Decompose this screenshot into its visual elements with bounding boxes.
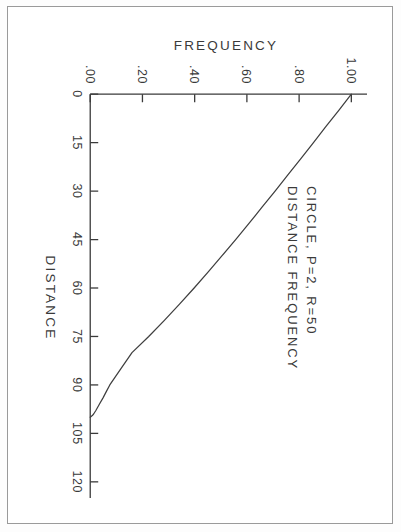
- rotated-figure: 0153045607590105120 .00.20.40.60.801.00 …: [15, 16, 385, 516]
- x-tick-label: 30: [70, 184, 84, 199]
- distance-frequency-chart: 0153045607590105120 .00.20.40.60.801.00 …: [15, 16, 385, 516]
- x-axis-ticks: 0153045607590105120: [70, 90, 98, 493]
- y-axis-ticks: .00.20.40.60.801.00: [83, 57, 358, 102]
- y-tick-label: .60: [239, 65, 253, 84]
- y-tick-label: .80: [292, 65, 306, 84]
- x-tick-label: 120: [70, 471, 84, 494]
- plot-area: 0153045607590105120 .00.20.40.60.801.00 …: [15, 16, 385, 516]
- x-tick-label: 75: [70, 329, 84, 344]
- chart-title-line-2: DISTANCE FREQUENCY: [285, 186, 300, 370]
- x-tick-label: 45: [70, 232, 84, 247]
- y-tick-label: .40: [187, 65, 201, 84]
- x-tick-label: 90: [70, 377, 84, 392]
- x-tick-label: 60: [70, 280, 84, 295]
- scanned-page: 0153045607590105120 .00.20.40.60.801.00 …: [0, 0, 401, 532]
- chart-title-line-1: CIRCLE, P=2, R=50: [304, 186, 319, 335]
- x-tick-label: 15: [70, 135, 84, 150]
- x-tick-label: 105: [70, 422, 84, 445]
- y-tick-label: .20: [135, 65, 149, 84]
- y-tick-label: .00: [83, 65, 97, 84]
- x-tick-label: 0: [70, 90, 84, 98]
- y-tick-label: 1.00: [344, 57, 358, 84]
- y-axis-title: FREQUENCY: [174, 38, 279, 53]
- x-axis-title: DISTANCE: [43, 256, 58, 341]
